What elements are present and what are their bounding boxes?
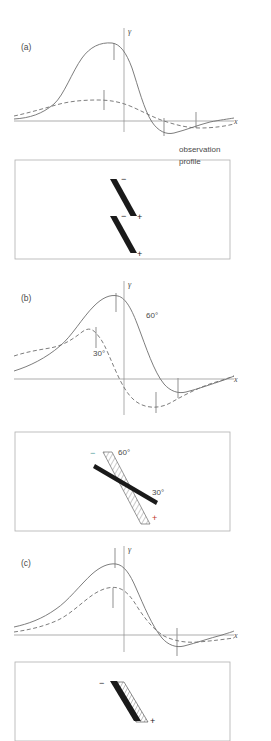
panel-a-label: (a): [21, 42, 32, 52]
panel-b-annotation-30: 30°: [93, 349, 105, 358]
figure-svg: (a) γ x observation profile − + − +: [0, 0, 271, 741]
panel-b-bar-hatched-shape: [103, 452, 150, 524]
panel-c-label: (c): [21, 558, 31, 568]
observation-caption-line1: observation: [179, 145, 220, 154]
panel-c: (c) γ x − +: [14, 545, 238, 741]
figure-root: (a) γ x observation profile − + − +: [0, 0, 271, 741]
panel-a-bar-1-plus: +: [137, 212, 142, 222]
panel-c-bar-plus: +: [150, 716, 155, 726]
panel-c-bar-minus: −: [99, 678, 104, 688]
panel-a: (a) γ x observation profile − + − +: [14, 27, 238, 259]
panel-c-y-axis-label: γ: [128, 545, 132, 554]
panel-b-y-axis-label: γ: [128, 280, 132, 289]
panel-c-bar: − +: [99, 678, 155, 726]
panel-a-bar-2-shape: [110, 216, 137, 253]
panel-b: (b) γ x 60° 30° 60° − + 30°: [14, 280, 238, 531]
panel-b-label: (b): [21, 293, 32, 303]
panel-a-bar-2-minus: −: [121, 211, 126, 221]
panel-b-bar-plus: +: [152, 513, 157, 523]
panel-c-x-axis-label: x: [233, 631, 238, 640]
panel-b-bar-black-shape: [93, 464, 158, 505]
observation-caption-line2: profile: [179, 157, 201, 166]
panel-b-annotation-60: 60°: [146, 311, 158, 320]
panel-b-bar-black-label: 30°: [152, 488, 164, 497]
panel-b-bar-minus: −: [90, 448, 95, 458]
panel-b-bar-hatched-label: 60°: [118, 448, 130, 457]
panel-b-bar-hatched: 60° − +: [90, 448, 157, 524]
panel-a-bar-1-minus: −: [121, 174, 126, 184]
panel-a-bar-2-plus: +: [137, 249, 142, 259]
panel-a-y-axis-label: γ: [128, 27, 132, 36]
